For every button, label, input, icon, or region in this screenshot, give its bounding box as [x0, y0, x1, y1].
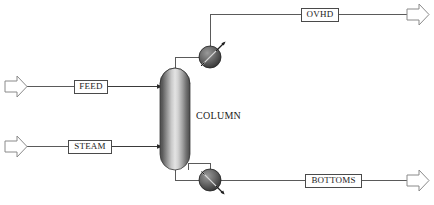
- stream-tag-steam: STEAM: [68, 140, 112, 154]
- pipe-column-to-condenser: [175, 58, 200, 69]
- ovhd-outlet-arrow: [407, 4, 429, 25]
- bottoms-outlet-arrow: [407, 170, 429, 191]
- column-vessel: [160, 68, 190, 170]
- stream-tag-bottoms: BOTTOMS: [305, 174, 362, 188]
- pfd-drawing-layer: [0, 0, 434, 205]
- steam-inlet-arrow: [5, 136, 27, 157]
- stream-terminator-arrows: [5, 4, 429, 191]
- piping-network: [26, 15, 408, 181]
- feed-inlet-arrow: [5, 76, 27, 97]
- pipe-reboiler-return: [188, 164, 210, 171]
- equipment-label-column: COLUMN: [196, 110, 241, 122]
- stream-tag-ovhd: OVHD: [301, 8, 339, 22]
- pipe-column-to-reboiler: [175, 170, 200, 181]
- process-flow-diagram: FEED STEAM OVHD BOTTOMS COLUMN: [0, 0, 434, 205]
- reboiler-exchanger: [199, 169, 225, 195]
- condenser-exchanger: [199, 41, 226, 68]
- stream-tag-feed: FEED: [74, 80, 108, 94]
